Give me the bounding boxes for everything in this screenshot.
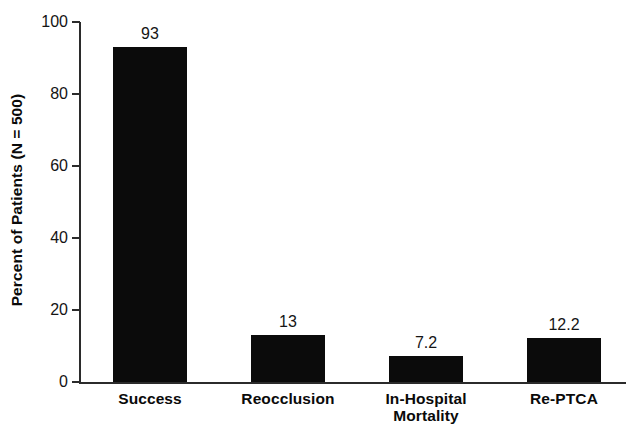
y-axis-tick-60 (72, 165, 80, 167)
bar-value-label: 13 (231, 314, 345, 330)
bar-chart: Percent of Patients (N = 500) 0204060801… (0, 0, 634, 448)
y-axis-line (79, 22, 81, 383)
plot-area: 93Success13Reocclusion7.2In-Hospital Mor… (0, 0, 634, 448)
bar[interactable] (389, 356, 463, 382)
x-axis-category-label: Reocclusion (208, 390, 368, 407)
y-axis-tick-label: 60 (8, 158, 68, 174)
x-axis-category-label: Success (70, 390, 230, 407)
y-axis-tick-100 (72, 21, 80, 23)
y-axis-tick-80 (72, 93, 80, 95)
y-axis-tick-0 (72, 381, 80, 383)
y-axis-title: Percent of Patients (N = 500) (0, 0, 34, 400)
bar[interactable] (113, 47, 187, 382)
y-axis-tick-20 (72, 309, 80, 311)
bar-value-label: 12.2 (507, 317, 621, 333)
x-axis-category-label: Re-PTCA (484, 390, 634, 407)
y-axis-tick-40 (72, 237, 80, 239)
y-axis-tick-label: 0 (8, 374, 68, 390)
y-axis-tick-label: 20 (8, 302, 68, 318)
y-axis-tick-label: 100 (8, 14, 68, 30)
bar-value-label: 7.2 (369, 335, 483, 351)
x-axis-line (79, 382, 626, 384)
x-axis-category-label: In-Hospital Mortality (346, 390, 506, 425)
bar[interactable] (527, 338, 601, 382)
y-axis-tick-label: 80 (8, 86, 68, 102)
bar[interactable] (251, 335, 325, 382)
y-axis-tick-label: 40 (8, 230, 68, 246)
y-axis-title-text: Percent of Patients (N = 500) (8, 94, 26, 307)
bar-value-label: 93 (93, 26, 207, 42)
